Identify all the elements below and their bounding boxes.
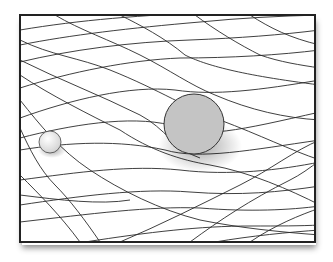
small-sphere [39,131,61,153]
large-sphere [164,94,224,154]
spacetime-diagram [0,0,333,262]
